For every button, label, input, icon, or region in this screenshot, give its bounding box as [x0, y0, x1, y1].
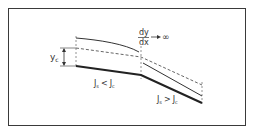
yc-arrow-up-icon [62, 48, 66, 52]
derivative-label: dy dx ∞ [138, 28, 170, 47]
water-surface-upstream [76, 38, 139, 52]
svg-text:dy: dy [139, 28, 149, 37]
mild-slope-label: Js<Jc [93, 79, 115, 89]
svg-text:dx: dx [139, 38, 149, 47]
critical-depth-label: yc [50, 52, 59, 63]
svg-text:∞: ∞ [162, 32, 170, 42]
steep-slope-label: Js>Jc [156, 95, 178, 105]
yc-arrow-down-icon [62, 62, 66, 66]
hydraulic-jump-diagram: yc dy dx ∞ Js<Jc Js>Jc [0, 0, 259, 134]
